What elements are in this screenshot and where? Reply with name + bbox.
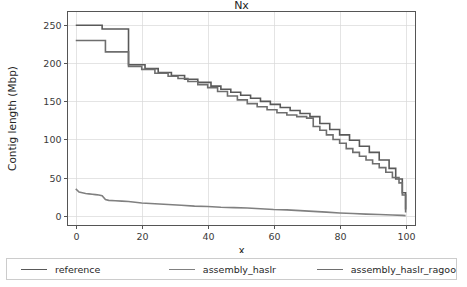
x-tick-label: 20 — [136, 231, 148, 242]
y-axis-label: Contig length (Mbp) — [6, 66, 18, 171]
y-tick-label: 150 — [43, 96, 61, 107]
chart-title: Nx — [234, 0, 249, 12]
x-tick-label: 80 — [334, 231, 346, 242]
y-tick-label: 0 — [55, 211, 61, 222]
plot-background — [68, 12, 416, 226]
legend-line-swatch — [169, 269, 195, 270]
legend-entry-assembly-haslr-ragoo[interactable]: assembly_haslr_ragoo — [303, 264, 456, 275]
x-tick-label: 40 — [202, 231, 214, 242]
y-tick-label: 100 — [43, 134, 61, 145]
x-tick-label: 100 — [397, 231, 415, 242]
legend-label: reference — [55, 264, 100, 275]
chart-legend: referenceassembly_haslrassembly_haslr_ra… — [6, 258, 457, 280]
legend-entry-reference[interactable]: reference — [7, 264, 155, 275]
legend-line-swatch — [21, 269, 47, 270]
y-tick-label: 200 — [43, 58, 61, 69]
figure-canvas: 020406080100050100150200250 Nx x Contig … — [0, 0, 467, 287]
legend-label: assembly_haslr_ragoo — [351, 264, 456, 275]
x-axis-label: x — [238, 244, 244, 254]
legend-entry-assembly-haslr[interactable]: assembly_haslr — [155, 264, 303, 275]
x-tick-label: 0 — [73, 231, 79, 242]
x-tick-label: 60 — [268, 231, 280, 242]
nx-line-chart: 020406080100050100150200250 Nx x Contig … — [0, 0, 467, 253]
legend-line-swatch — [317, 269, 343, 270]
y-tick-label: 50 — [49, 173, 61, 184]
legend-label: assembly_haslr — [203, 264, 276, 275]
y-tick-label: 250 — [43, 20, 61, 31]
